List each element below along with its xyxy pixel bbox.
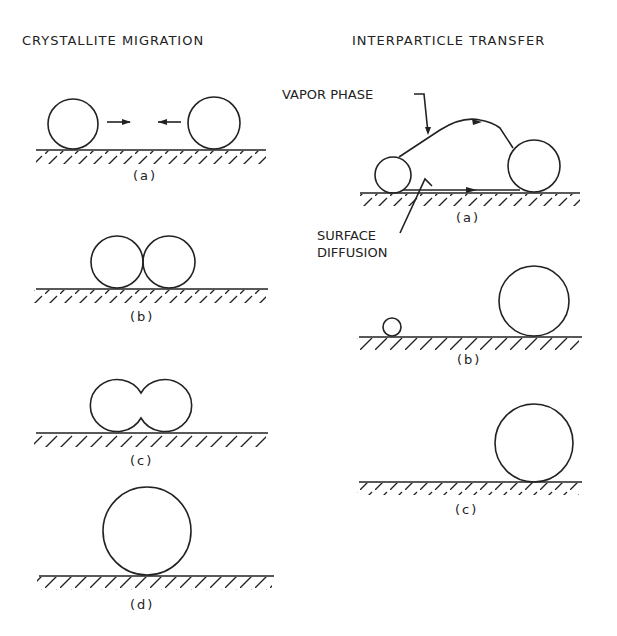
- sintering-mechanisms-diagram: CRYSTALLITE MIGRATION INTERPARTICLE TRAN…: [0, 0, 617, 636]
- left-panel-b: (b): [34, 236, 268, 324]
- arrow-left-icon: [158, 119, 181, 125]
- crystallite-right: [188, 97, 240, 149]
- substrate-hatch: [36, 151, 266, 164]
- caption-left-a: (a): [133, 168, 157, 183]
- crystallite-right: [143, 236, 195, 288]
- necked-crystallites: [90, 380, 191, 432]
- coalesced-crystallite: [103, 487, 191, 575]
- substrate-hatch: [357, 338, 579, 350]
- small-particle: [375, 157, 411, 193]
- surface-arrow-icon: [466, 187, 477, 193]
- final-particle: [495, 404, 573, 482]
- right-panel-c: (c): [357, 404, 582, 517]
- substrate-hatch: [357, 483, 579, 495]
- arrow-right-icon: [107, 119, 131, 125]
- right-column-title: INTERPARTICLE TRANSFER: [352, 33, 545, 48]
- substrate-hatch: [37, 577, 272, 590]
- caption-right-a: (a): [456, 210, 480, 225]
- vapor-phase-label: VAPOR PHASE: [282, 87, 373, 102]
- diffusion-label: DIFFUSION: [317, 245, 387, 260]
- vapor-phase-path: [399, 119, 513, 157]
- tiny-particle: [383, 318, 401, 336]
- caption-left-c: (c): [130, 453, 153, 468]
- grown-particle: [499, 266, 569, 336]
- caption-left-b: (b): [130, 309, 154, 324]
- left-panel-a: (a): [36, 97, 266, 183]
- substrate-hatch: [34, 434, 266, 447]
- left-panel-d: (d): [37, 487, 274, 612]
- surface-label: SURFACE: [317, 228, 376, 243]
- crystallite-left: [48, 99, 98, 149]
- caption-right-c: (c): [455, 502, 478, 517]
- right-panel-a: VAPOR PHASE (a) SURFACE DIFFUSION: [282, 87, 580, 260]
- caption-right-b: (b): [457, 352, 481, 367]
- crystallite-left: [91, 236, 143, 288]
- substrate-hatch: [34, 290, 266, 303]
- left-column-title: CRYSTALLITE MIGRATION: [22, 33, 204, 48]
- left-panel-c: (c): [34, 380, 268, 469]
- right-panel-b: (b): [357, 266, 582, 367]
- caption-left-d: (d): [130, 597, 154, 612]
- large-particle: [508, 140, 560, 192]
- substrate-hatch: [358, 194, 580, 206]
